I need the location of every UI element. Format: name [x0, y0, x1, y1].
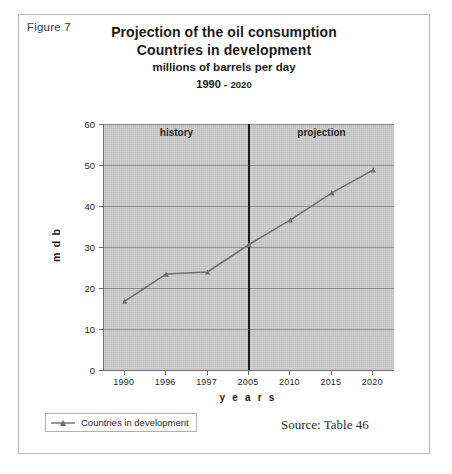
legend-item-label: Countries in development	[81, 417, 189, 428]
chart-subtitle-range: 1990 - 2020	[19, 76, 429, 93]
x-axis-tick-label: 1997	[196, 377, 217, 387]
y-axis-tick-mark	[99, 329, 103, 330]
source-note: Source: Table 46	[281, 417, 369, 433]
y-axis-tick-label: 40	[61, 201, 95, 212]
x-axis-tick-mark	[248, 371, 249, 375]
y-axis-tick-label: 60	[61, 119, 95, 130]
y-axis-tick-mark	[99, 206, 103, 207]
y-axis-tick-mark	[99, 247, 103, 248]
range-end: 2020	[231, 79, 252, 90]
series-line	[125, 170, 374, 301]
y-axis-tick-label: 30	[61, 242, 95, 253]
x-axis-tick-mark	[207, 371, 208, 375]
range-start: 1990 -	[196, 78, 230, 90]
y-axis-tick-label: 50	[61, 160, 95, 171]
chart-area: m d b historyprojection 0102030405060 19…	[19, 111, 431, 401]
chart-legend[interactable]: Countries in development	[45, 413, 197, 432]
legend-line-marker-icon	[50, 418, 76, 428]
y-axis-tick-mark	[99, 288, 103, 289]
chart-title-block: Projection of the oil consumption Countr…	[19, 23, 429, 93]
x-axis-tick-label: 1990	[113, 377, 134, 387]
y-axis-tick-label: 20	[61, 283, 95, 294]
y-axis-tick-label: 10	[61, 324, 95, 335]
y-axis-tick-label: 0	[61, 365, 95, 376]
chart-title-line-1: Projection of the oil consumption	[19, 23, 429, 41]
x-axis-tick-label: 1996	[155, 377, 176, 387]
x-axis-tick-mark	[331, 371, 332, 375]
x-axis-tick-mark	[165, 371, 166, 375]
chart-title-line-2: Countries in development	[19, 41, 429, 59]
x-axis-tick-mark	[372, 371, 373, 375]
x-axis-tick-label: 2020	[362, 377, 383, 387]
y-axis-tick-mark	[99, 370, 103, 371]
series-line-chart	[104, 124, 394, 370]
x-axis-tick-label: 2015	[320, 377, 341, 387]
data-point-marker	[371, 167, 376, 172]
x-axis-tick-mark	[289, 371, 290, 375]
x-axis-tick-label: 2010	[279, 377, 300, 387]
figure-frame: Figure 7 Projection of the oil consumpti…	[18, 14, 430, 454]
y-axis-tick-mark	[99, 165, 103, 166]
plot-area: historyprojection	[103, 124, 394, 371]
x-axis-tick-label: 2005	[238, 377, 259, 387]
x-axis-title: y e a r s	[103, 392, 393, 403]
y-axis-tick-mark	[99, 124, 103, 125]
x-axis-tick-mark	[124, 371, 125, 375]
chart-subtitle-units: millions of barrels per day	[19, 59, 429, 76]
